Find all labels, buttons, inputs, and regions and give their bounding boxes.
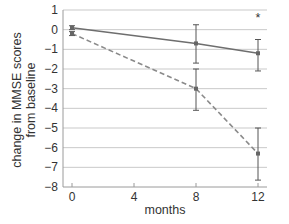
- y-tick-label: 0: [51, 23, 58, 37]
- x-tick-label: 0: [69, 190, 76, 204]
- y-tick-label: −8: [44, 180, 58, 194]
- axes: [63, 10, 267, 187]
- x-tick-label: 4: [131, 190, 138, 204]
- y-tick-label: −3: [44, 82, 58, 96]
- data-point-marker: [194, 41, 198, 45]
- data-point-marker: [194, 87, 198, 91]
- data-point-marker: [70, 32, 74, 36]
- series-dashed: [69, 32, 261, 181]
- data-point-marker: [256, 51, 260, 55]
- data-series: [69, 25, 261, 180]
- x-axis-ticks: 04812: [69, 183, 265, 204]
- data-point-marker: [70, 26, 74, 30]
- y-tick-label: −4: [44, 101, 58, 115]
- y-tick-label: −2: [44, 62, 58, 76]
- series-solid: [69, 25, 261, 71]
- x-tick-label: 12: [251, 190, 265, 204]
- y-axis-label-line2: from baseline: [24, 62, 38, 137]
- data-point-marker: [256, 152, 260, 156]
- x-axis-label: months: [145, 203, 186, 217]
- gridlines: [63, 10, 267, 167]
- y-tick-label: −7: [44, 160, 58, 174]
- dashed-line: [72, 34, 258, 154]
- x-tick-label: 8: [193, 190, 200, 204]
- y-tick-label: −5: [44, 121, 58, 135]
- y-axis-ticks: 10−1−2−3−4−5−6−7−8: [44, 3, 58, 194]
- y-tick-label: −1: [44, 42, 58, 56]
- y-tick-label: 1: [51, 3, 58, 17]
- y-axis-label-line1: change in MMSE scores: [10, 32, 24, 167]
- significance-asterisk: *: [256, 11, 261, 25]
- mmse-change-chart: 10−1−2−3−4−5−6−7−8 04812 * months change…: [0, 0, 289, 224]
- y-tick-label: −6: [44, 141, 58, 155]
- y-axis-label: change in MMSE scores from baseline: [10, 32, 38, 167]
